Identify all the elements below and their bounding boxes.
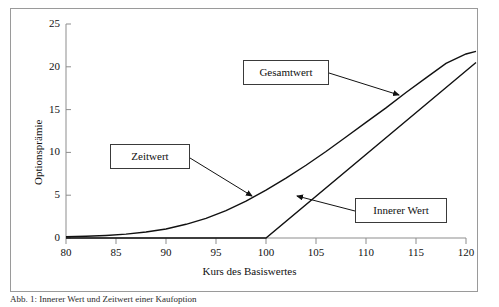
leader-innerer-wert (297, 196, 355, 211)
y-tick-label-25: 25 (40, 18, 60, 29)
x-tick-label-90: 90 (151, 247, 181, 258)
x-axis-ticks (66, 238, 466, 244)
annotation-innerer-wert: Innerer Wert (355, 198, 447, 223)
x-tick-label-115: 115 (401, 247, 431, 258)
x-axis-title: Kurs des Basiswertes (0, 265, 499, 277)
y-axis-title: Optionsprämie (32, 120, 44, 185)
x-tick-label-110: 110 (351, 247, 381, 258)
figure-caption: Abb. 1: Innerer Wert und Zeitwert einer … (10, 294, 480, 305)
x-tick-label-85: 85 (101, 247, 131, 258)
y-tick-label-15: 15 (40, 104, 60, 115)
leader-gesamtwert (329, 73, 399, 95)
x-tick-label-105: 105 (301, 247, 331, 258)
x-tick-label-100: 100 (251, 247, 281, 258)
annotation-gesamtwert: Gesamtwert (243, 60, 329, 85)
x-tick-label-95: 95 (201, 247, 231, 258)
figure-root: 0 5 10 15 20 25 80 85 90 95 100 105 110 … (0, 0, 499, 307)
leader-zeitwert (190, 158, 252, 196)
y-tick-label-5: 5 (40, 189, 60, 200)
y-axis-ticks (66, 24, 71, 238)
x-tick-label-80: 80 (51, 247, 81, 258)
annotation-zeitwert: Zeitwert (110, 144, 190, 169)
chart-canvas (0, 0, 499, 307)
y-tick-label-20: 20 (40, 61, 60, 72)
x-tick-label-120: 120 (451, 247, 481, 258)
y-tick-label-0: 0 (40, 232, 60, 243)
